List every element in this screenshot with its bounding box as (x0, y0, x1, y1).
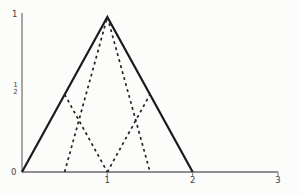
plot-canvas (0, 0, 301, 195)
series-hat-function-solid (22, 17, 193, 172)
series-center-refined-hat-dashed (65, 17, 150, 172)
x-tick-label-1: 1 (105, 176, 110, 185)
series-left-half-hat-descending-dashed (65, 95, 108, 173)
y-axis-label-one: 1 (12, 10, 17, 19)
x-tick-label-3: 3 (275, 176, 280, 185)
fraction-denominator: 2 (11, 89, 20, 96)
hat-function-figure: 1 1 2 0 123 (0, 0, 301, 195)
series-right-half-hat-ascending-dashed (107, 95, 150, 173)
y-axis-label-zero: 0 (11, 168, 16, 177)
x-tick-label-2: 2 (190, 176, 195, 185)
y-axis-label-half: 1 2 (11, 82, 20, 96)
